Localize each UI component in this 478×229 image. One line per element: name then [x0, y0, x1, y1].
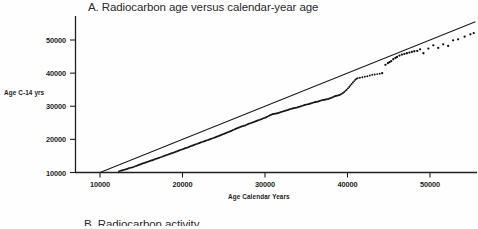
data-point — [457, 38, 459, 40]
data-point — [348, 86, 350, 88]
x-tick-label: 20000 — [160, 180, 206, 189]
data-point — [390, 60, 392, 62]
axis-lines — [75, 16, 477, 173]
data-point — [442, 43, 444, 45]
x-tick-label: 50000 — [407, 180, 453, 189]
y-tick-label: 30000 — [20, 102, 66, 111]
x-axis-title: Age Calendar Years — [228, 193, 290, 200]
data-point — [427, 47, 429, 49]
data-point — [364, 76, 366, 78]
data-point — [419, 48, 421, 50]
data-point — [366, 75, 368, 77]
data-point — [352, 82, 354, 84]
data-point — [371, 74, 373, 76]
x-tick-label: 10000 — [77, 180, 123, 189]
data-point-cloud — [118, 32, 475, 172]
data-point — [398, 54, 400, 56]
data-point — [359, 77, 361, 79]
y-axis-title: Age C-14 yrs — [4, 89, 44, 96]
data-point — [349, 85, 351, 87]
data-point — [411, 51, 413, 53]
one-to-one-line — [100, 22, 475, 173]
data-point — [437, 47, 439, 49]
data-point — [473, 32, 475, 34]
data-point — [403, 53, 405, 55]
data-point — [447, 45, 449, 47]
data-point — [369, 74, 371, 76]
data-point — [408, 51, 410, 53]
data-point — [452, 39, 454, 41]
data-point — [401, 53, 403, 55]
data-point — [396, 56, 398, 58]
data-point — [464, 36, 466, 38]
x-tick-marks — [100, 173, 430, 178]
data-point — [361, 76, 363, 78]
x-tick-label: 40000 — [325, 180, 371, 189]
data-point — [357, 77, 359, 79]
y-tick-marks — [70, 40, 76, 173]
data-point — [406, 52, 408, 54]
data-point — [392, 58, 394, 60]
y-tick-label: 20000 — [20, 135, 66, 144]
data-point — [416, 50, 418, 52]
x-tick-label: 30000 — [242, 180, 288, 189]
data-point — [376, 73, 378, 75]
data-point — [351, 83, 353, 85]
data-point — [379, 73, 381, 75]
bottom-clip-mask — [0, 226, 478, 229]
data-point — [381, 72, 383, 74]
y-tick-label: 10000 — [20, 169, 66, 178]
data-point — [422, 52, 424, 54]
data-point — [413, 50, 415, 52]
data-point — [469, 33, 471, 35]
one-to-one-reference-line — [100, 22, 475, 173]
data-point — [384, 64, 386, 66]
data-point — [432, 44, 434, 46]
data-point — [374, 74, 376, 76]
y-tick-label: 50000 — [20, 36, 66, 45]
radiocarbon-calibration-figure: A. Radiocarbon age versus calendar-year … — [0, 0, 478, 229]
y-tick-label: 40000 — [20, 69, 66, 78]
